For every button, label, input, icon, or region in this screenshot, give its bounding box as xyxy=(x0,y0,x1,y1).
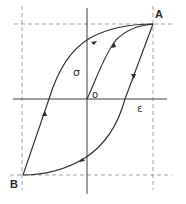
stress-label: σ xyxy=(73,66,80,79)
origin-label: o xyxy=(92,89,98,100)
axes xyxy=(13,8,167,194)
initial-loading-curve xyxy=(87,24,153,99)
strain-label: ε xyxy=(137,103,142,114)
arrow-icon xyxy=(91,41,97,45)
curves xyxy=(23,24,153,175)
reloading-curve xyxy=(23,24,153,175)
guide-lines xyxy=(10,6,172,190)
point-a-label: A xyxy=(155,8,163,20)
unloading-curve xyxy=(23,24,153,175)
arrowheads xyxy=(42,41,136,162)
arrow-icon xyxy=(131,74,136,79)
hysteresis-diagram: A B o σ ε xyxy=(0,0,186,204)
point-b-label: B xyxy=(10,178,18,190)
